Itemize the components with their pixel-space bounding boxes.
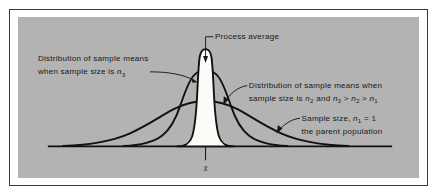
n2-label-gt-2: > (360, 94, 370, 103)
n2-label-subscript-4: 1 (374, 97, 378, 104)
n2-label-gt-1: > (341, 94, 351, 103)
n2-distribution-annotation: Distribution of sample means when sample… (223, 81, 382, 105)
plot-panel: Process average Distribution of sample m… (18, 17, 419, 178)
n1-label-line2: the parent population (302, 127, 383, 136)
x-bar-axis-label: x̄ (203, 164, 208, 173)
n3-label-line2-prefix: when sample size is (37, 67, 117, 76)
n3-distribution-annotation: Distribution of sample means when sample… (37, 54, 198, 82)
figure-root: Process average Distribution of sample m… (0, 0, 437, 195)
n2-label-line2: sample size is n2 and n3 > n2 > n1 (249, 94, 378, 104)
n2-label-conjunction: and (314, 94, 333, 103)
n1-label-suffix: = 1 (362, 114, 377, 123)
n3-label-subscript: 3 (122, 71, 126, 78)
n1-leader-line (280, 118, 300, 129)
n1-label-line1: Sample size, n1 = 1 (302, 114, 377, 124)
process-average-label: Process average (215, 32, 279, 41)
n1-label-prefix: Sample size, (302, 114, 354, 123)
n2-label-line2-prefix: sample size is (249, 94, 305, 103)
n3-label-line2: when sample size is n3 (37, 67, 126, 77)
figure-frame: Process average Distribution of sample m… (9, 9, 428, 186)
n2-label-line1: Distribution of sample means when (249, 81, 382, 90)
n3-label-line1: Distribution of sample means (38, 54, 149, 63)
n3-leader-line (150, 72, 193, 80)
distribution-chart: Process average Distribution of sample m… (18, 17, 419, 178)
process-average-annotation: Process average (203, 32, 279, 63)
n1-population-annotation: Sample size, n1 = 1 the parent populatio… (277, 114, 383, 136)
